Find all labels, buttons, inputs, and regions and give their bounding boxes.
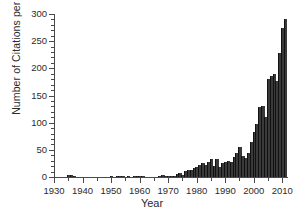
citation-histogram-chart: Number of Citations per Year 05010015020… (0, 0, 304, 218)
y-tick-minor (51, 117, 54, 118)
y-tick-minor (51, 63, 54, 64)
x-tick-label: 1960 (129, 186, 150, 196)
y-axis-title: Number of Citations per Year (10, 0, 22, 126)
y-tick-major (49, 41, 54, 42)
y-tick-label: 250 (31, 36, 47, 46)
y-tick-minor (51, 19, 54, 20)
y-tick-major (49, 123, 54, 124)
x-tick-major (111, 178, 112, 183)
x-tick-major (254, 178, 255, 183)
x-axis-title: Year (0, 197, 304, 209)
x-tick-major (225, 178, 226, 183)
y-tick-minor (51, 161, 54, 162)
x-tick-minor (268, 178, 269, 181)
bar (121, 176, 124, 177)
x-tick-major (197, 178, 198, 183)
y-tick-major (49, 68, 54, 69)
x-tick-major (168, 178, 169, 183)
y-tick-minor (51, 30, 54, 31)
x-tick-major (140, 178, 141, 183)
y-tick-label: 300 (31, 9, 47, 19)
x-tick-label: 2010 (272, 186, 293, 196)
x-tick-label: 2000 (243, 186, 264, 196)
x-tick-minor (154, 178, 155, 181)
x-tick-label: 1940 (72, 186, 93, 196)
y-tick-minor (51, 25, 54, 26)
y-tick-minor (51, 74, 54, 75)
y-tick-minor (51, 101, 54, 102)
x-tick-label: 1970 (158, 186, 179, 196)
y-axis-line (54, 14, 55, 177)
y-tick-minor (51, 139, 54, 140)
y-tick-minor (51, 166, 54, 167)
x-tick-major (54, 178, 55, 183)
x-tick-minor (97, 178, 98, 181)
y-tick-major (49, 14, 54, 15)
y-tick-minor (51, 90, 54, 91)
plot-area: 050100150200250300 193019401950196019701… (54, 14, 288, 177)
y-tick-label: 100 (31, 118, 47, 128)
y-tick-label: 200 (31, 64, 47, 74)
y-tick-major (49, 150, 54, 151)
x-tick-label: 1930 (43, 186, 64, 196)
x-tick-minor (182, 178, 183, 181)
x-tick-label: 1950 (100, 186, 121, 196)
x-tick-major (83, 178, 84, 183)
y-tick-minor (51, 52, 54, 53)
x-tick-major (282, 178, 283, 183)
y-tick-minor (51, 36, 54, 37)
bar (284, 19, 287, 177)
y-tick-label: 150 (31, 91, 47, 101)
bar (73, 176, 76, 177)
y-tick-minor (51, 172, 54, 173)
x-tick-minor (211, 178, 212, 181)
x-tick-label: 1980 (186, 186, 207, 196)
y-tick-label: 0 (42, 172, 47, 182)
y-tick-minor (51, 144, 54, 145)
y-tick-label: 50 (36, 145, 47, 155)
y-tick-major (49, 96, 54, 97)
y-tick-minor (51, 85, 54, 86)
y-tick-minor (51, 79, 54, 80)
bar (110, 176, 113, 177)
y-tick-minor (51, 57, 54, 58)
bar (127, 176, 130, 177)
y-tick-minor (51, 155, 54, 156)
y-tick-minor (51, 112, 54, 113)
bar (141, 176, 144, 177)
x-tick-minor (125, 178, 126, 181)
y-tick-minor (51, 134, 54, 135)
x-tick-minor (239, 178, 240, 181)
y-tick-minor (51, 47, 54, 48)
x-tick-minor (68, 178, 69, 181)
y-tick-minor (51, 106, 54, 107)
y-tick-minor (51, 128, 54, 129)
x-tick-label: 1990 (215, 186, 236, 196)
